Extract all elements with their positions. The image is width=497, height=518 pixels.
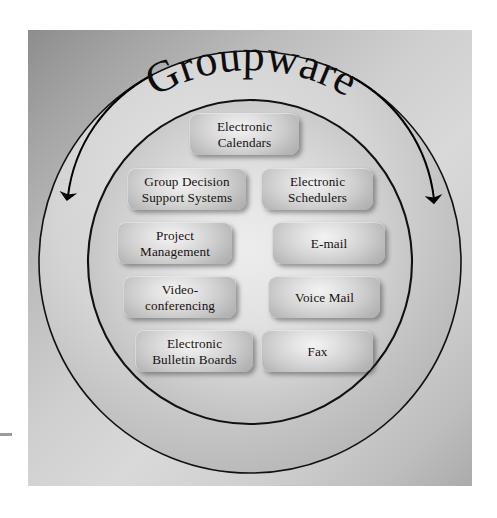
item-box-project-management[interactable]: Project Management xyxy=(117,222,232,264)
item-label-e-mail: E-mail xyxy=(306,236,353,252)
item-box-electronic-bulletin-boards[interactable]: Electronic Bulletin Boards xyxy=(135,330,253,372)
item-box-fax[interactable]: Fax xyxy=(261,330,373,372)
item-box-group-decision-support[interactable]: Group Decision Support Systems xyxy=(127,168,246,210)
item-box-e-mail[interactable]: E-mail xyxy=(272,222,385,264)
diagram-root: Groupware Electronic Calendars Group Dec… xyxy=(0,0,497,518)
item-label-electronic-schedulers: Electronic Schedulers xyxy=(283,174,352,205)
item-label-voice-mail: Voice Mail xyxy=(290,290,359,306)
item-label-electronic-calendars: Electronic Calendars xyxy=(212,119,277,150)
diagram-vector-layer: Groupware xyxy=(0,0,497,518)
item-label-electronic-bulletin-boards: Electronic Bulletin Boards xyxy=(147,336,242,367)
item-label-video-conferencing: Video- conferencing xyxy=(140,282,220,313)
item-box-electronic-calendars[interactable]: Electronic Calendars xyxy=(189,113,299,155)
item-label-group-decision-support: Group Decision Support Systems xyxy=(137,174,238,205)
diagram-stage: Groupware xyxy=(0,0,497,518)
item-box-video-conferencing[interactable]: Video- conferencing xyxy=(123,276,236,318)
item-box-voice-mail[interactable]: Voice Mail xyxy=(268,276,380,318)
item-label-project-management: Project Management xyxy=(135,228,215,259)
item-label-fax: Fax xyxy=(302,344,332,360)
item-box-electronic-schedulers[interactable]: Electronic Schedulers xyxy=(261,168,373,210)
